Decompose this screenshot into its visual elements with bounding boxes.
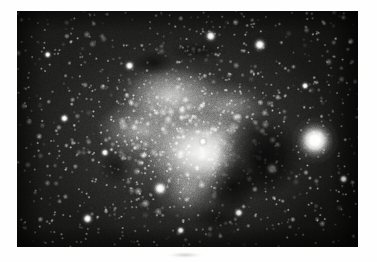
dust-lane-layer — [17, 11, 358, 247]
page-canvas — [0, 0, 377, 262]
print-smudge — [168, 252, 202, 258]
astronomy-photograph — [17, 11, 358, 247]
